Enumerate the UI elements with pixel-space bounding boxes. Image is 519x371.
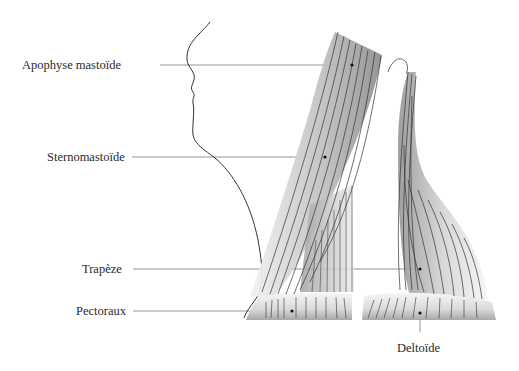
face-profile-outline bbox=[187, 22, 262, 318]
ear-curve bbox=[388, 59, 408, 74]
label-trapeze: Trapèze bbox=[82, 262, 122, 276]
pectoral-muscle bbox=[246, 293, 352, 320]
label-pectoraux: Pectoraux bbox=[76, 304, 126, 318]
label-sternomastoide: Sternomastoïde bbox=[47, 150, 125, 164]
label-apophyse-mastoide: Apophyse mastoïde bbox=[22, 58, 121, 72]
label-deltoide: Deltoïde bbox=[397, 341, 440, 355]
